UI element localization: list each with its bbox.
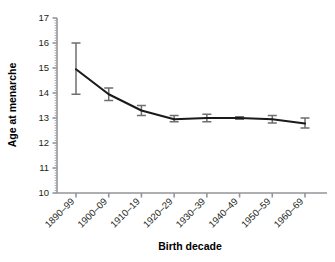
x-axis-title: Birth decade bbox=[158, 240, 222, 252]
menarche-line-chart: Age at menarche Birth decade 10111213141… bbox=[0, 0, 335, 262]
y-tick-label-14: 14 bbox=[38, 87, 49, 98]
y-tick-label-11: 11 bbox=[39, 162, 49, 173]
y-tick-label-17: 17 bbox=[38, 12, 49, 23]
chart-container: Age at menarche Birth decade 10111213141… bbox=[0, 0, 335, 262]
y-tick-label-15: 15 bbox=[38, 62, 49, 73]
y-axis-title: Age at menarche bbox=[6, 63, 18, 148]
y-tick-label-10: 10 bbox=[38, 187, 49, 198]
y-axis-minor-ticks bbox=[55, 21, 57, 191]
y-tick-label-12: 12 bbox=[38, 137, 49, 148]
y-tick-label-16: 16 bbox=[38, 37, 49, 48]
y-tick-label-13: 13 bbox=[38, 112, 49, 123]
